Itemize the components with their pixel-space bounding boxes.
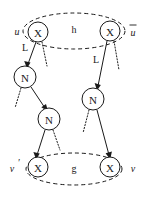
outer-label-u-bar: u bbox=[131, 27, 136, 38]
region-label-h: h bbox=[72, 24, 77, 35]
node-x-bottom-left[interactable]: X bbox=[28, 157, 48, 177]
region-label-g: g bbox=[72, 163, 77, 174]
node-label: N bbox=[45, 114, 53, 126]
edge-xtopright-dangling bbox=[114, 41, 119, 70]
edge-label-L-right: L bbox=[93, 54, 99, 65]
diagram-canvas: X X N N N X bbox=[0, 0, 150, 197]
edge-nleftlower-to-xbotleft bbox=[37, 130, 45, 155]
node-n-left-upper[interactable]: N bbox=[14, 66, 36, 88]
region-label-group: h g bbox=[72, 24, 77, 174]
node-label: N bbox=[21, 72, 29, 84]
node-label: N bbox=[89, 94, 97, 106]
outer-label-group: u u v ′ v bbox=[10, 25, 137, 174]
edge-nleftupper-dangling bbox=[15, 88, 21, 108]
edge-nright-dangling bbox=[83, 110, 89, 133]
edge-label-L-left: L bbox=[22, 42, 28, 53]
node-x-top-right[interactable]: X bbox=[100, 21, 120, 41]
outer-label-u: u bbox=[15, 26, 20, 37]
edge-label-group: L L bbox=[22, 42, 99, 65]
prime-mark-v: ′ bbox=[17, 157, 20, 168]
node-n-left-lower[interactable]: N bbox=[38, 108, 60, 130]
edge-xtopright-to-nright bbox=[98, 41, 107, 86]
graph-svg: X X N N N X bbox=[0, 0, 150, 197]
node-label: X bbox=[34, 162, 42, 174]
node-x-bottom-right[interactable]: X bbox=[100, 157, 120, 177]
edge-nright-to-xbotright bbox=[97, 110, 109, 155]
node-label: X bbox=[106, 162, 114, 174]
edge-nleftupper-to-nleftlower bbox=[31, 87, 45, 108]
node-label: X bbox=[34, 27, 42, 39]
node-n-right[interactable]: N bbox=[82, 88, 104, 110]
node-group: X X N N N X bbox=[14, 21, 120, 177]
outer-label-v: v bbox=[131, 163, 136, 174]
edge-nleftlower-dangling bbox=[53, 130, 60, 150]
node-x-top-left[interactable]: X bbox=[28, 22, 48, 42]
edge-xtopleft-to-nleft bbox=[28, 42, 36, 64]
node-label: X bbox=[106, 26, 114, 38]
outer-label-v-prime: v bbox=[10, 163, 15, 174]
